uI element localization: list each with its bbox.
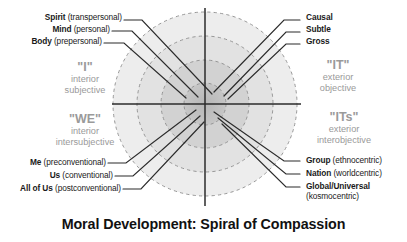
- label-gross: Gross: [306, 36, 329, 47]
- quadrant-upper-left-line2: subjective: [48, 85, 122, 96]
- quadrant-upper-left-line1: interior: [48, 74, 122, 85]
- label-causal-bold: Causal: [306, 12, 333, 22]
- label-nation-bold: Nation: [306, 168, 331, 178]
- label-all-of-us: All of Us (postconventional): [0, 183, 121, 194]
- label-kosmocentric-paren: (kosmocentric): [306, 191, 359, 201]
- label-all-of-us-paren: (postconventional): [55, 183, 121, 193]
- label-mind-bold: Mind: [52, 24, 71, 34]
- label-mind: Mind (personal): [0, 24, 110, 35]
- label-mind-paren: (personal): [74, 24, 110, 34]
- quadrant-upper-right-line2: objective: [300, 83, 376, 94]
- label-causal: Causal: [306, 12, 333, 23]
- label-spirit: Spirit (transpersonal): [0, 12, 122, 23]
- label-group-paren: (ethnocentric): [333, 155, 382, 165]
- quadrant-lower-right-line2: interobjective: [288, 135, 400, 146]
- label-subtle: Subtle: [306, 24, 331, 35]
- label-kosmocentric: (kosmocentric): [306, 191, 359, 202]
- figure-caption: Moral Development: Spiral of Compassion: [0, 216, 407, 232]
- quadrant-lower-left-name: "WE": [26, 112, 144, 126]
- label-global-universal: Global/Universal: [306, 181, 370, 192]
- quadrant-lower-right-name: "ITs": [288, 110, 400, 124]
- label-spirit-paren: (transpersonal): [68, 12, 122, 22]
- quadrant-upper-left-name: "I": [48, 60, 122, 74]
- label-nation: Nation (worldcentric): [306, 168, 382, 179]
- quadrant-lower-right-line1: exterior: [288, 124, 400, 135]
- label-me-paren: (preconventional): [44, 157, 106, 167]
- quadrant-upper-right-name: "IT": [300, 58, 376, 72]
- quadrant-lower-left: "WE" interior intersubjective: [26, 112, 144, 148]
- quadrant-upper-right: "IT" exterior objective: [300, 58, 376, 94]
- label-global-universal-bold: Global/Universal: [306, 181, 370, 191]
- label-us-paren: (conventional): [62, 170, 113, 180]
- label-body: Body (prepersonal): [0, 36, 102, 47]
- label-group: Group (ethnocentric): [306, 155, 382, 166]
- label-gross-bold: Gross: [306, 36, 329, 46]
- label-me-bold: Me: [30, 157, 41, 167]
- quadrant-lower-left-line2: intersubjective: [26, 137, 144, 148]
- label-us-bold: Us: [50, 170, 60, 180]
- diagram-canvas: Spirit (transpersonal) Mind (personal) B…: [0, 0, 407, 242]
- label-me: Me (preconventional): [0, 157, 106, 168]
- label-body-paren: (prepersonal): [54, 36, 102, 46]
- label-us: Us (conventional): [0, 170, 113, 181]
- label-group-bold: Group: [306, 155, 330, 165]
- label-subtle-bold: Subtle: [306, 24, 331, 34]
- quadrant-upper-left: "I" interior subjective: [48, 60, 122, 96]
- label-spirit-bold: Spirit: [45, 12, 66, 22]
- label-body-bold: Body: [31, 36, 51, 46]
- label-nation-paren: (worldcentric): [333, 168, 381, 178]
- quadrant-lower-left-line1: interior: [26, 126, 144, 137]
- quadrant-upper-right-line1: exterior: [300, 72, 376, 83]
- label-all-of-us-bold: All of Us: [20, 183, 53, 193]
- quadrant-lower-right: "ITs" exterior interobjective: [288, 110, 400, 146]
